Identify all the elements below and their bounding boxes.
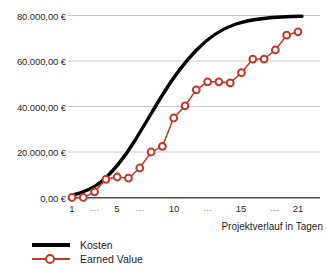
black-line-swatch-icon — [30, 239, 72, 251]
x-tick-label: 15 — [236, 203, 247, 214]
red-line-circle-swatch-icon — [30, 253, 72, 265]
x-axis-labels: 1 ... 5 ... 10 ... 15 ... 21 — [0, 203, 327, 219]
x-tick-label: ... — [90, 203, 99, 213]
legend-label: Kosten — [80, 239, 113, 251]
y-tick-label: 60.000,00 € — [17, 56, 66, 67]
y-tick-label: 80.000,00 € — [17, 10, 66, 21]
gridlines — [68, 16, 320, 153]
x-tick-label: 5 — [114, 203, 119, 214]
x-tick-label: ... — [135, 203, 144, 213]
legend-item-kosten: Kosten — [30, 238, 230, 252]
series-earned-value — [69, 28, 302, 201]
x-tick-label: ... — [203, 203, 212, 213]
x-tick-label: 21 — [293, 203, 304, 214]
y-tick-label: 0,00 € — [40, 192, 66, 203]
chart-legend: Kosten Earned Value — [30, 238, 230, 266]
legend-item-earned-value: Earned Value — [30, 252, 230, 266]
legend-label: Earned Value — [80, 253, 143, 265]
y-axis-labels: 80.000,00 € 60.000,00 € 40.000,00 € 20.0… — [0, 0, 66, 220]
x-axis-title: Projektverlauf in Tagen — [0, 221, 323, 232]
x-tick-label: ... — [270, 203, 279, 213]
y-tick-label: 20.000,00 € — [17, 147, 66, 158]
y-tick-label: 40.000,00 € — [17, 101, 66, 112]
x-tick-label: 1 — [69, 203, 74, 214]
earned-value-chart: 80.000,00 € 60.000,00 € 40.000,00 € 20.0… — [0, 0, 327, 272]
x-tick-label: 10 — [169, 203, 180, 214]
